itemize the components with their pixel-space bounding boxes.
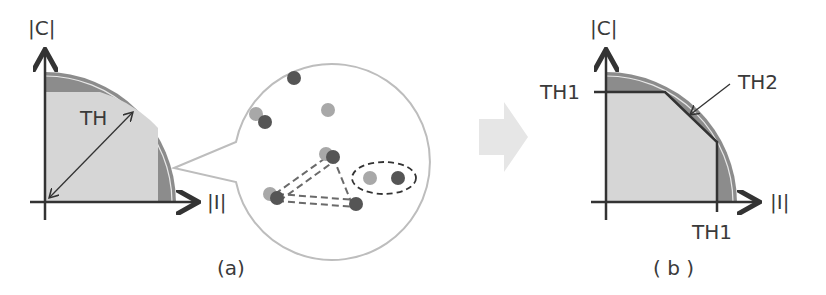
right-arrow-icon: [479, 102, 528, 172]
th2-pointer: [691, 84, 730, 114]
caption-b: ( b ): [653, 258, 694, 278]
th1-x-label: TH1: [692, 222, 732, 242]
y-axis-label-a: |C|: [28, 18, 55, 38]
zoom-callout: [174, 64, 430, 260]
th-label: TH: [80, 108, 107, 128]
panel-b-plot: [591, 52, 757, 220]
x-axis-label-b: |I|: [770, 192, 789, 212]
diagram-canvas: [0, 0, 826, 295]
th2-label: TH2: [738, 72, 778, 92]
light-region-b: [606, 92, 717, 202]
panel-a-plot: [30, 52, 196, 220]
y-axis-label-b: |C|: [590, 18, 617, 38]
x-axis-label-a: |I|: [207, 192, 226, 212]
th1-y-label: TH1: [540, 82, 580, 102]
caption-a: (a): [217, 258, 245, 278]
